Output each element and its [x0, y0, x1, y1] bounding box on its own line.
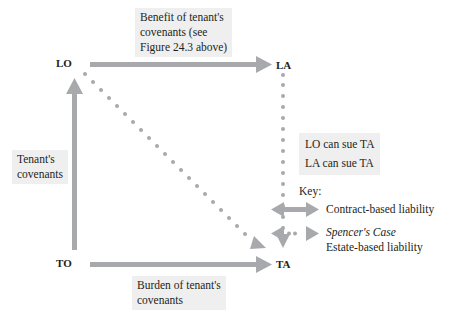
key-dotted-double-arrow-icon: [271, 226, 319, 241]
can-sue-line: LA can sue TA: [305, 154, 374, 173]
arrow-to-to-ta: [90, 256, 272, 273]
benefit-label: Benefit of tenant's covenants (see Figur…: [135, 8, 232, 57]
arrow-to-to-lo: [66, 78, 83, 250]
key-estate-label: Estate-based liability: [326, 240, 423, 255]
dotted-arrow-lo-to-ta: [83, 72, 266, 249]
tenant-covenants-line: Tenant's: [17, 152, 63, 167]
can-sue-line: LO can sue TA: [305, 135, 374, 154]
key-spencers-case-label: Spencer's Case: [326, 225, 423, 240]
node-lo: LO: [56, 57, 72, 69]
can-sue-label: LO can sue TA LA can sue TA: [299, 133, 380, 175]
key-item-estate: Spencer's Case Estate-based liability: [326, 225, 423, 255]
key-item-contract: Contract-based liability: [326, 202, 434, 217]
burden-label-line: covenants: [137, 293, 221, 308]
node-la: LA: [276, 59, 291, 71]
burden-label-line: Burden of tenant's: [137, 278, 221, 293]
benefit-label-line: Figure 24.3 above): [140, 40, 227, 55]
benefit-label-line: covenants (see: [140, 25, 227, 40]
key-title: Key:: [299, 184, 321, 199]
key-solid-double-arrow-icon: [271, 202, 319, 217]
benefit-label-line: Benefit of tenant's: [140, 10, 227, 25]
node-ta: TA: [276, 258, 290, 270]
tenant-covenants-line: covenants: [17, 167, 63, 182]
diagram-arrows: [0, 0, 475, 320]
burden-label: Burden of tenant's covenants: [132, 276, 226, 310]
key-contract-label: Contract-based liability: [326, 202, 434, 217]
dotted-arrow-la-to-ta: [276, 73, 290, 248]
node-to: TO: [56, 257, 72, 269]
tenant-covenants-label: Tenant's covenants: [12, 150, 68, 184]
arrow-lo-to-la: [90, 56, 272, 73]
